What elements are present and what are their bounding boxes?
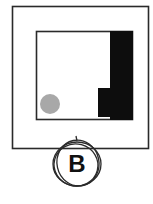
figure-label-b: B (64, 150, 90, 178)
grey-ball (40, 94, 60, 114)
